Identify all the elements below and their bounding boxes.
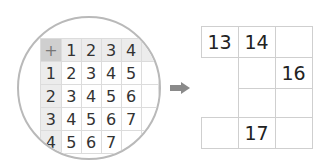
table-cell: [141, 131, 158, 154]
grid-cell: 17: [238, 117, 275, 148]
row-header: 4: [41, 131, 62, 154]
table-cell: 5: [81, 108, 101, 131]
table-cell: 2: [61, 62, 81, 85]
table-cell: 6: [121, 85, 141, 108]
column-header: 3: [101, 39, 121, 62]
column-header: 4: [121, 39, 141, 62]
operator-cell: +: [41, 39, 62, 62]
puzzle-grid: 13 14 16 17: [201, 26, 313, 148]
grid-cell: [275, 117, 312, 148]
table-cell: 5: [121, 62, 141, 85]
table-cell: 6: [101, 108, 121, 131]
right-arrow-icon: [170, 82, 190, 94]
grid-cell: 16: [275, 57, 312, 88]
column-header: 2: [81, 39, 101, 62]
table-cell: 5: [101, 85, 121, 108]
table-cell: [141, 62, 158, 85]
grid-cell: 14: [238, 26, 275, 57]
addition-table: + 1 2 3 4 1 2 3 4 5 2 3 4 5 6 3 4 5 6: [40, 38, 159, 154]
grid-cell: [238, 88, 275, 117]
grid-cell: [275, 26, 312, 57]
grid-cell: [275, 88, 312, 117]
table-cell: [121, 131, 141, 154]
table-cell: 4: [101, 62, 121, 85]
grid-cell: [201, 117, 238, 148]
row-header: 3: [41, 108, 62, 131]
table-cell: 7: [101, 131, 121, 154]
table-cell: 6: [81, 131, 101, 154]
row-header: 2: [41, 85, 62, 108]
table-cell: 3: [81, 62, 101, 85]
column-header: [141, 39, 158, 62]
column-header: 1: [61, 39, 81, 62]
table-cell: 5: [61, 131, 81, 154]
table-cell: 3: [61, 85, 81, 108]
grid-cell: 13: [201, 26, 238, 57]
table-cell: 4: [61, 108, 81, 131]
table-cell: [141, 85, 158, 108]
magnified-addition-table: + 1 2 3 4 1 2 3 4 5 2 3 4 5 6 3 4 5 6: [17, 16, 161, 160]
row-header: 1: [41, 62, 62, 85]
grid-cell: [238, 57, 275, 88]
table-cell: 7: [121, 108, 141, 131]
table-cell: 4: [81, 85, 101, 108]
table-cell: [141, 108, 158, 131]
